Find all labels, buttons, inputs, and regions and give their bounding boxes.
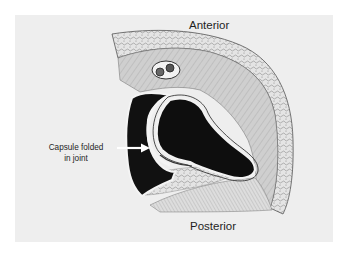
joint-cross-section-illustration: [0, 0, 341, 254]
posterior-label: Posterior: [190, 220, 236, 232]
callout-line-2: in joint: [38, 153, 114, 164]
capsule-callout-label: Capsule folded in joint: [38, 142, 114, 164]
anterior-label: Anterior: [189, 19, 229, 31]
vessels: [152, 61, 180, 79]
callout-line-1: Capsule folded: [38, 142, 114, 153]
